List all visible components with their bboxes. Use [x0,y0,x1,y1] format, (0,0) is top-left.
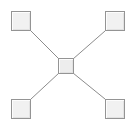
top-right-node[interactable] [105,11,125,31]
top-left-node[interactable] [11,11,31,31]
edge-top-right-to-center [73,31,105,59]
edge-top-left-to-center [31,31,59,59]
edge-bottom-left-to-center [31,73,59,99]
bottom-left-node[interactable] [11,99,31,119]
center-hub-node[interactable] [58,58,74,74]
edge-bottom-right-to-center [73,73,105,99]
bottom-right-node[interactable] [105,99,125,119]
star-topology-diagram [0,0,131,125]
